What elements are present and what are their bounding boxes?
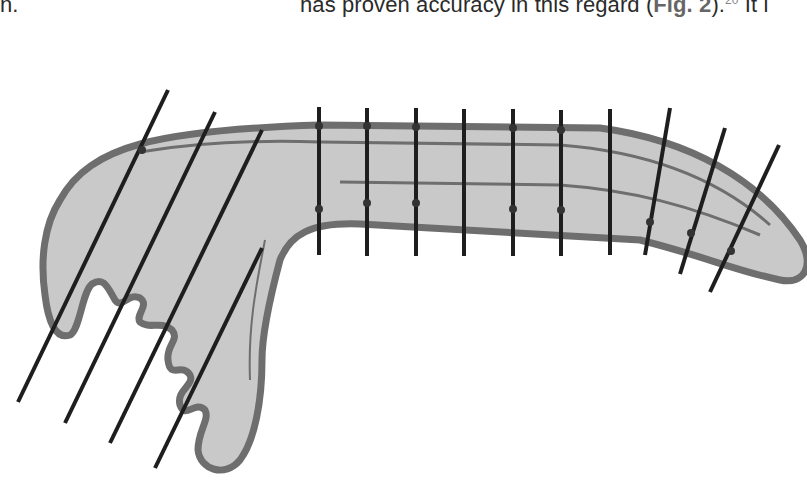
figure-diagram (0, 0, 807, 481)
